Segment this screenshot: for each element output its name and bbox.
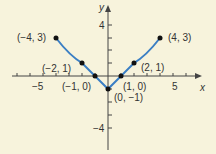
chart: x y −5 5 4 −4 (−4, 3) (−2, 1) (−1, 0) (0… [0,0,216,154]
tick-y-neg4: −4 [93,123,105,134]
y-axis [105,5,112,150]
x-axis-label: x [199,82,206,93]
tick-x-neg5: −5 [32,81,44,92]
label-p7: (4, 3) [168,32,191,43]
label-p1: (−4, 3) [17,32,46,43]
tick-x-5: 5 [172,81,178,92]
label-p2: (−2, 1) [42,63,71,74]
y-axis-arrow-icon [105,5,111,12]
tick-y-4: 4 [99,20,105,31]
label-p6: (2, 1) [141,62,164,73]
y-axis-label: y [98,2,105,13]
label-p3: (−1, 0) [62,81,91,92]
x-axis [12,73,202,79]
label-p5: (1, 0) [123,81,146,92]
x-axis-arrow-icon [195,73,202,79]
label-p4: (0, −1) [114,92,143,103]
